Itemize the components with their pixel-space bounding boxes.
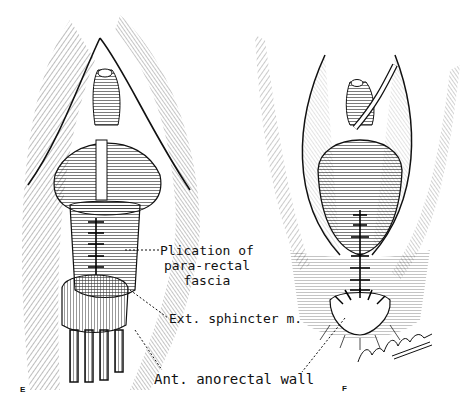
surgical-illustration: Plication of para-rectal fascia Ext. sph…	[0, 0, 472, 395]
panel-e-retractor	[96, 140, 107, 200]
panel-letter-f: F	[342, 384, 347, 393]
panel-e-urethral-area	[93, 70, 120, 125]
label-plication-para-rectal-fascia: Plication of para-rectal fascia	[160, 243, 254, 288]
panel-f-urethral-meatus	[351, 80, 363, 87]
label-plication-line-2: para-rectal	[160, 258, 254, 273]
panel-e-urethral-meatus	[98, 69, 112, 77]
label-ext-sphincter: Ext. sphincter m.	[169, 312, 302, 325]
illustration-drawings	[0, 0, 472, 395]
label-ant-anorectal-wall: Ant. anorectal wall	[154, 372, 314, 386]
label-plication-line-3: fascia	[160, 273, 254, 288]
panel-e-drawing	[22, 15, 200, 390]
panel-e-clamps	[70, 330, 123, 382]
panel-letter-e: E	[20, 385, 25, 394]
label-plication-line-1: Plication of	[160, 243, 254, 258]
panel-e-anal-canal	[62, 275, 128, 333]
